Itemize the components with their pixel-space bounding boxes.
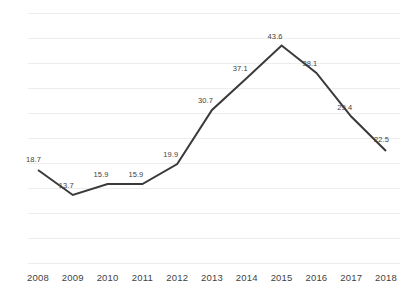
- line-chart: 18.713.715.915.919.930.737.143.638.129.4…: [0, 0, 416, 299]
- gridlines: [28, 14, 400, 264]
- x-axis-tick-label: 2014: [236, 272, 258, 284]
- x-axis-tick-label: 2017: [340, 272, 362, 284]
- x-axis-tick-label: 2009: [62, 272, 84, 284]
- data-point-label: 38.1: [302, 59, 317, 68]
- x-axis-tick-label: 2010: [97, 272, 119, 284]
- data-point-label: 15.9: [128, 170, 143, 179]
- data-point-label: 19.9: [163, 150, 178, 159]
- x-axis-tick-label: 2018: [375, 272, 397, 284]
- data-point-label: 43.6: [268, 32, 283, 41]
- x-axis-tick-label: 2012: [166, 272, 188, 284]
- data-point-label: 29.4: [337, 103, 352, 112]
- x-axis-tick-label: 2015: [271, 272, 293, 284]
- x-axis-tick-label: 2011: [132, 272, 153, 284]
- data-point-label: 37.1: [233, 64, 248, 73]
- x-axis-tick-label: 2008: [27, 272, 49, 284]
- data-point-label: 22.5: [374, 135, 389, 144]
- x-axis-tick-label: 2013: [201, 272, 223, 284]
- chart-plot-area: [0, 0, 416, 299]
- data-point-label: 13.7: [59, 181, 74, 190]
- data-point-label: 15.9: [94, 170, 109, 179]
- x-axis-tick-label: 2016: [305, 272, 327, 284]
- series-line-path: [38, 46, 386, 196]
- data-point-label: 30.7: [198, 96, 213, 105]
- data-point-label: 18.7: [26, 155, 41, 164]
